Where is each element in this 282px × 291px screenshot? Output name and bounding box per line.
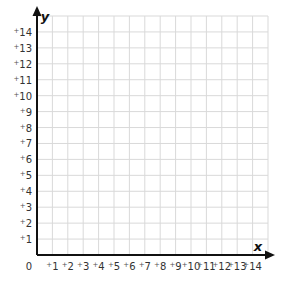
origin-label: 0: [26, 261, 32, 272]
axes: [33, 6, 276, 260]
x-tick-label: +7: [139, 261, 151, 272]
y-tick-label: +11: [13, 75, 32, 86]
y-tick-label: +2: [20, 218, 32, 229]
x-axis-arrow-icon: [265, 251, 275, 260]
x-tick-label: +6: [123, 261, 135, 272]
y-tick-label: +8: [20, 123, 32, 134]
y-tick-label: +6: [20, 154, 32, 165]
x-tick-label: +4: [92, 261, 104, 272]
coordinate-grid: +1+2+3+4+5+6+7+8+9+10+11+12+13+14 +1+2+3…: [0, 0, 282, 291]
y-tick-label: +10: [13, 91, 32, 102]
x-axis-label: x: [253, 239, 263, 254]
y-tick-label: +14: [13, 27, 32, 38]
y-axis-label: y: [41, 9, 50, 24]
x-tick-labels: +1+2+3+4+5+6+7+8+9+10+11+12+13+14: [46, 261, 262, 272]
x-tick-label: +5: [108, 261, 120, 272]
y-tick-label: +5: [20, 170, 32, 181]
y-tick-label: +9: [20, 107, 32, 118]
y-tick-label: +13: [13, 43, 32, 54]
y-tick-labels: +1+2+3+4+5+6+7+8+9+10+11+12+13+14: [13, 27, 32, 245]
x-tick-label: +1: [46, 261, 58, 272]
x-tick-label: +9: [169, 261, 181, 272]
x-tick-label: +8: [154, 261, 166, 272]
y-tick-label: +3: [20, 202, 32, 213]
grid-lines: [37, 16, 268, 255]
y-tick-label: +1: [20, 234, 32, 245]
y-tick-label: +4: [20, 186, 32, 197]
x-tick-label: +3: [77, 261, 89, 272]
x-tick-label: +2: [62, 261, 74, 272]
y-tick-label: +12: [13, 59, 32, 70]
y-tick-label: +7: [20, 138, 32, 149]
